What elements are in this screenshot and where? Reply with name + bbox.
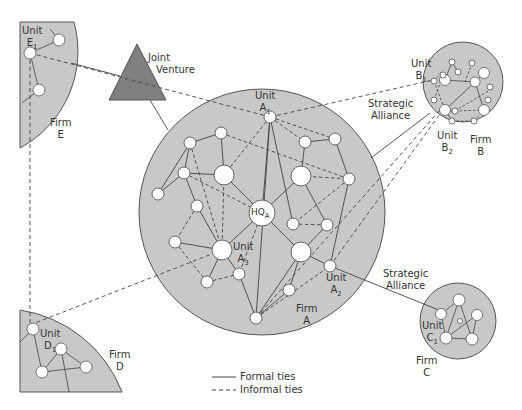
- node: [191, 200, 203, 212]
- interfirm-network-diagram: [0, 0, 522, 410]
- node: [215, 127, 227, 139]
- label-firm-c: Firm C: [416, 355, 437, 379]
- firm-d: [20, 310, 122, 392]
- legend-informal: Informal ties: [212, 383, 303, 396]
- label-unit-b1: Unit B1: [411, 58, 431, 86]
- node: [184, 137, 196, 149]
- node: [299, 136, 311, 148]
- label-firm-b: Firm B: [470, 134, 491, 158]
- node: [152, 188, 164, 200]
- label-unit-e1: Unit E1: [22, 25, 42, 53]
- label-unit-d1: Unit D1: [40, 328, 60, 356]
- node: [283, 284, 295, 296]
- label-hq-a: HQA: [251, 206, 270, 222]
- node: [178, 167, 190, 179]
- node: [321, 219, 333, 231]
- node: [201, 276, 213, 288]
- label-firm-e: Firm E: [50, 117, 71, 141]
- label-strategic-alliance-top: Strategic Alliance: [368, 98, 413, 122]
- dashed-line-icon: [212, 387, 236, 393]
- node: [343, 173, 355, 185]
- label-unit-a2: Unit A2: [326, 272, 346, 300]
- label-unit-a3: Unit A3: [233, 241, 253, 269]
- node-unit-a3: [212, 240, 232, 260]
- node-large: [291, 166, 311, 186]
- node: [233, 268, 245, 280]
- label-strategic-alliance-bottom: Strategic Alliance: [383, 268, 428, 292]
- label-firm-d: Firm D: [109, 349, 130, 373]
- label-joint-venture: Joint Venture: [148, 52, 195, 76]
- legend-formal: Formal ties: [212, 370, 303, 383]
- label-unit-a1: Unit A1: [255, 90, 275, 118]
- node: [169, 236, 181, 248]
- node: [250, 312, 262, 324]
- node: [329, 133, 341, 145]
- label-unit-b2: Unit B2: [437, 130, 457, 158]
- label-unit-c1: Unit C1: [422, 320, 442, 348]
- label-firm-a: Firm A: [296, 303, 317, 327]
- node-large: [291, 242, 311, 262]
- legend: Formal ties Informal ties: [212, 370, 303, 396]
- solid-line-icon: [212, 374, 236, 380]
- node: [287, 218, 299, 230]
- node-large: [214, 165, 234, 185]
- node-unit-a2: [324, 260, 336, 272]
